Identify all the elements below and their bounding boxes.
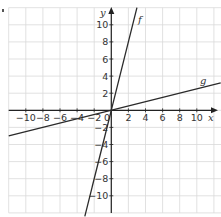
x-tick-label: −10 [16, 112, 36, 123]
crop-artifact-mark [2, 9, 4, 12]
line-g-label: g [200, 75, 206, 86]
y-tick-label: −6 [94, 156, 108, 167]
y-tick-label: 8 [102, 36, 108, 47]
y-tick-label: 2 [102, 88, 108, 99]
coordinate-plane: −10−8−6−4−2246810108642−2−4−6−8−10 x y f… [0, 0, 221, 217]
x-tick-label: 8 [177, 112, 183, 123]
line-g [9, 83, 221, 136]
x-tick-label: 4 [142, 112, 148, 123]
line-f-label: f [137, 14, 144, 25]
x-tick-label: 2 [125, 112, 131, 123]
x-axis-label: x [208, 112, 214, 123]
origin-label: 0 [104, 112, 110, 123]
x-tick-label: 10 [191, 112, 203, 123]
y-axis-label: y [99, 7, 106, 18]
x-tick-label: −8 [36, 112, 50, 123]
y-tick-label: 10 [96, 19, 108, 30]
y-tick-label: 4 [102, 71, 108, 82]
y-tick-label: 6 [102, 54, 108, 65]
y-tick-label: −8 [94, 173, 108, 184]
x-tick-label: 6 [160, 112, 166, 123]
